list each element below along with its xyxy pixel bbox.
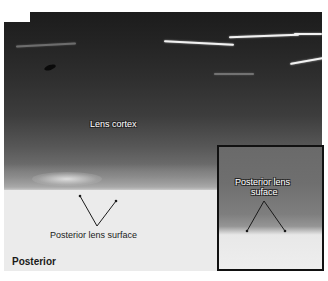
dark-inclusion: [44, 63, 57, 71]
inset-magnified-view: [217, 145, 324, 271]
fiber-streak: [214, 73, 254, 75]
inset-label-line2: suface: [251, 188, 278, 197]
capsule-highlight: [32, 172, 102, 186]
panel-label-cutout: [4, 12, 30, 22]
fiber-streak: [294, 33, 322, 35]
fiber-streak: [164, 40, 234, 46]
posterior-orientation-label: Posterior: [12, 257, 56, 267]
fiber-streak: [16, 42, 76, 47]
fiber-streak: [229, 34, 299, 38]
lens-cortex-label: Lens cortex: [90, 120, 137, 129]
posterior-lens-surface-label: Posterior lens surface: [50, 231, 137, 240]
fiber-streak: [290, 57, 322, 65]
inset-label-line1: Posterior lens: [235, 178, 290, 187]
